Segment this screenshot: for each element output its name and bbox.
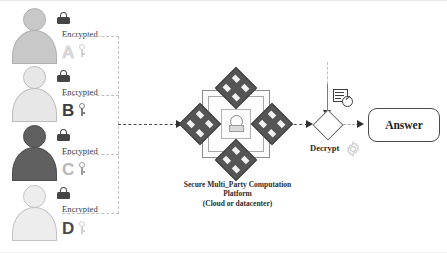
avatar-head: [23, 185, 46, 208]
secure-lock-icon: [221, 109, 251, 139]
connector-b: [62, 95, 119, 96]
decrypt-feed-dash: [327, 62, 328, 84]
padlock-icon: [56, 129, 71, 142]
answer-arrow-head: [357, 120, 364, 128]
key-icon-d: [78, 221, 86, 234]
padlock-icon: [56, 70, 71, 83]
padlock-icon: [56, 12, 71, 25]
document-line: [335, 98, 341, 99]
document-clock-icon: [333, 89, 353, 107]
connector-c: [62, 154, 119, 155]
avatar-body: [12, 207, 57, 241]
avatar-head: [23, 66, 46, 89]
platform-caption: Secure Multi_Party Computation Platform …: [160, 180, 315, 208]
connector-bus: [118, 36, 119, 214]
key-icon-b: [78, 103, 86, 116]
padlock-body: [57, 17, 70, 24]
avatar-body: [12, 30, 57, 64]
padlock-icon: [56, 187, 71, 200]
diamond-decision-icon: [312, 109, 343, 140]
participant-d: Encrypted D: [8, 185, 128, 247]
platform-caption-line-1: Secure Multi_Party Computation: [160, 180, 315, 189]
document-line: [335, 92, 344, 93]
key-tooth: [81, 171, 85, 173]
mpc-platform: [186, 74, 286, 174]
decrypt-label: Decrypt: [310, 143, 339, 153]
connector-d: [62, 213, 119, 214]
avatar-head: [23, 125, 46, 148]
encrypted-label-a: Encrypted: [62, 29, 98, 39]
key-icon-a: [78, 44, 86, 57]
output-arrow-line: [288, 124, 308, 125]
padlock-body: [57, 134, 70, 141]
diagram-canvas: Encrypted A Encrypted B: [0, 0, 447, 253]
person-avatar-c: [12, 125, 58, 181]
participant-a: Encrypted A: [8, 8, 128, 70]
platform-caption-line-2: Platform: [160, 189, 315, 198]
participant-label-d: D: [62, 220, 74, 237]
document-line: [335, 95, 344, 96]
participant-label-a: A: [62, 44, 74, 61]
lock-body: [229, 125, 244, 132]
participant-label-c: C: [62, 161, 74, 178]
person-avatar-d: [12, 185, 58, 241]
connector-a: [62, 36, 119, 37]
key-tooth: [81, 230, 85, 232]
person-avatar-b: [12, 66, 58, 122]
avatar-body: [12, 147, 57, 181]
person-avatar-a: [12, 8, 58, 64]
answer-label: Answer: [385, 119, 423, 131]
avatar-head: [23, 8, 46, 31]
platform-caption-line-3: (Cloud or datacenter): [160, 199, 315, 208]
padlock-body: [57, 192, 70, 199]
padlock-body: [57, 75, 70, 82]
key-tooth: [81, 112, 85, 114]
input-arrow-line: [118, 124, 178, 125]
answer-box: Answer: [368, 108, 440, 142]
participant-b: Encrypted B: [8, 66, 128, 128]
participant-c: Encrypted C: [8, 125, 128, 187]
key-icon-c: [78, 162, 86, 175]
key-tooth: [81, 53, 85, 55]
avatar-body: [12, 88, 57, 122]
participant-label-b: B: [62, 102, 74, 119]
gear-icon: [345, 141, 361, 157]
